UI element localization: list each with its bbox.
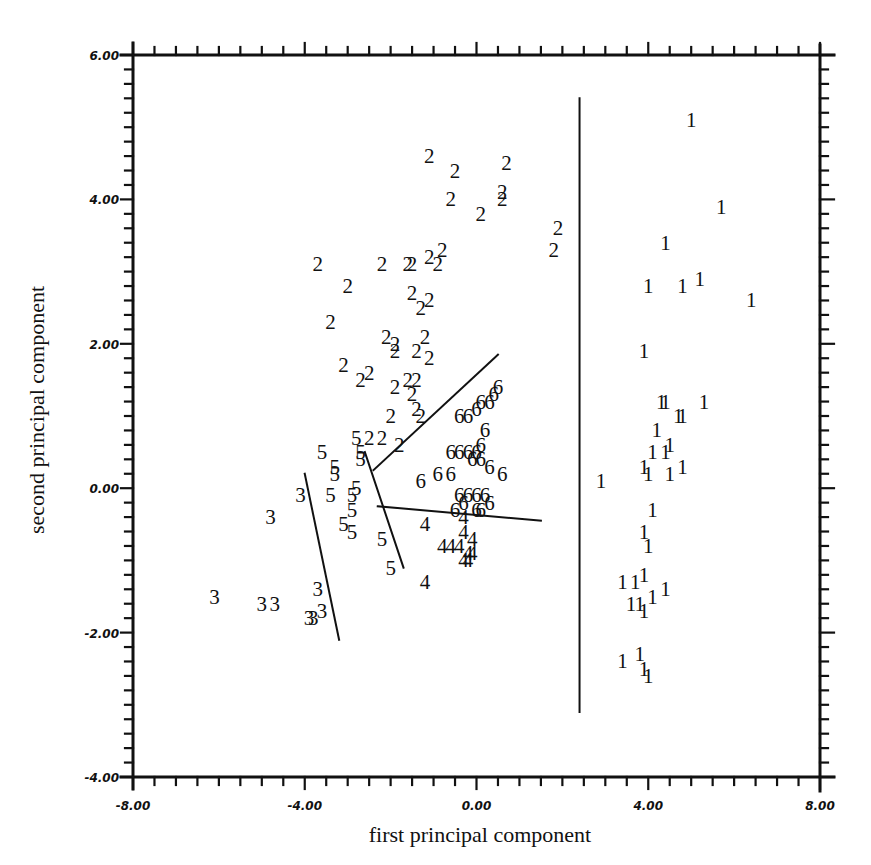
data-point-class-4: 4 — [420, 512, 431, 536]
data-point-class-5: 5 — [317, 440, 328, 464]
data-point-class-1: 1 — [643, 462, 654, 486]
data-point-class-1: 1 — [647, 585, 658, 609]
y-axis-title: second principal component — [24, 286, 49, 534]
data-point-class-1: 1 — [652, 418, 663, 442]
data-point-class-3: 3 — [265, 505, 276, 529]
data-point-class-2: 2 — [450, 159, 461, 183]
data-point-class-1: 1 — [677, 404, 688, 428]
data-point-class-3: 3 — [269, 592, 280, 616]
data-points: 1111111111111111111111111111111111111222… — [209, 108, 756, 688]
data-point-class-1: 1 — [664, 462, 675, 486]
data-point-class-2: 2 — [377, 252, 388, 276]
y-tick-label: 2.00 — [89, 338, 119, 352]
data-point-class-2: 2 — [415, 404, 426, 428]
data-point-class-1: 1 — [617, 570, 628, 594]
data-point-class-2: 2 — [476, 202, 487, 226]
data-point-class-1: 1 — [660, 231, 671, 255]
data-point-class-2: 2 — [325, 310, 336, 334]
data-point-class-2: 2 — [407, 252, 418, 276]
data-point-class-1: 1 — [746, 288, 757, 312]
data-point-class-1: 1 — [695, 267, 706, 291]
data-point-class-2: 2 — [501, 151, 512, 175]
data-point-class-6: 6 — [415, 469, 426, 493]
data-point-class-6: 6 — [445, 462, 456, 486]
data-point-class-6: 6 — [497, 462, 508, 486]
data-point-class-2: 2 — [377, 426, 388, 450]
data-point-class-2: 2 — [424, 346, 435, 370]
data-point-class-2: 2 — [433, 252, 444, 276]
y-tick-label: 6.00 — [89, 49, 119, 63]
data-point-class-6: 6 — [484, 455, 495, 479]
x-tick-label: -8.00 — [116, 799, 151, 813]
data-point-class-2: 2 — [390, 375, 401, 399]
data-point-class-2: 2 — [549, 238, 560, 262]
data-point-class-5: 5 — [325, 483, 336, 507]
data-point-class-1: 1 — [686, 108, 697, 132]
scatter-chart: -8.00-4.000.004.008.006.004.002.000.00-2… — [0, 0, 871, 865]
data-point-class-2: 2 — [338, 353, 349, 377]
data-point-class-1: 1 — [647, 498, 658, 522]
x-tick-label: -4.00 — [287, 799, 322, 813]
data-point-class-1: 1 — [660, 440, 671, 464]
data-point-class-1: 1 — [660, 577, 671, 601]
data-point-class-2: 2 — [342, 274, 353, 298]
data-point-class-6: 6 — [463, 404, 474, 428]
data-point-class-2: 2 — [553, 216, 564, 240]
data-point-class-5: 5 — [377, 527, 388, 551]
data-point-class-2: 2 — [355, 368, 366, 392]
data-point-class-6: 6 — [476, 498, 487, 522]
data-point-class-5: 5 — [385, 556, 396, 580]
x-tick-label: 0.00 — [462, 799, 492, 813]
data-point-class-1: 1 — [716, 195, 727, 219]
data-point-class-4: 4 — [467, 541, 478, 565]
x-tick-label: 8.00 — [805, 799, 835, 813]
data-point-class-1: 1 — [660, 390, 671, 414]
data-point-class-1: 1 — [643, 664, 654, 688]
data-point-class-6: 6 — [433, 462, 444, 486]
data-point-class-5: 5 — [351, 476, 362, 500]
data-point-class-2: 2 — [445, 187, 456, 211]
data-point-class-1: 1 — [643, 274, 654, 298]
data-point-class-4: 4 — [420, 570, 431, 594]
data-point-class-2: 2 — [394, 433, 405, 457]
y-tick-label: 0.00 — [89, 482, 119, 496]
data-point-class-1: 1 — [699, 390, 710, 414]
data-point-class-2: 2 — [497, 187, 508, 211]
data-point-class-2: 2 — [312, 252, 323, 276]
data-point-class-2: 2 — [415, 296, 426, 320]
data-point-class-1: 1 — [677, 274, 688, 298]
data-point-class-5: 5 — [330, 462, 341, 486]
x-axis-title: first principal component — [369, 822, 591, 847]
y-tick-label: -2.00 — [84, 627, 119, 641]
data-point-class-1: 1 — [639, 563, 650, 587]
data-point-class-5: 5 — [347, 520, 358, 544]
data-point-class-2: 2 — [424, 144, 435, 168]
data-point-class-1: 1 — [677, 455, 688, 479]
decision-boundary-lines — [305, 98, 580, 712]
data-point-class-5: 5 — [355, 447, 366, 471]
data-point-class-3: 3 — [312, 577, 323, 601]
data-point-class-1: 1 — [596, 469, 607, 493]
y-tick-label: 4.00 — [88, 193, 119, 207]
data-point-class-3: 3 — [257, 592, 268, 616]
data-point-class-1: 1 — [643, 534, 654, 558]
data-point-class-3: 3 — [295, 483, 306, 507]
data-point-class-1: 1 — [617, 649, 628, 673]
x-tick-label: 4.00 — [632, 799, 663, 813]
data-point-class-3: 3 — [209, 585, 220, 609]
y-tick-label: -4.00 — [84, 771, 119, 785]
data-point-class-3: 3 — [304, 606, 315, 630]
data-point-class-2: 2 — [411, 339, 422, 363]
data-point-class-1: 1 — [639, 339, 650, 363]
data-point-class-6: 6 — [484, 390, 495, 414]
data-point-class-2: 2 — [385, 404, 396, 428]
data-point-class-2: 2 — [390, 339, 401, 363]
